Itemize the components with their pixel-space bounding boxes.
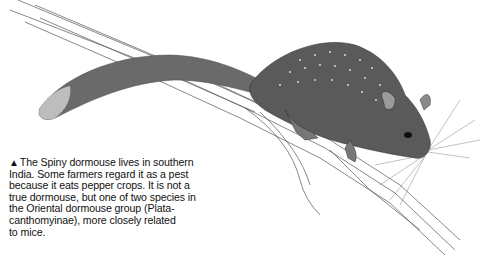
triangle-marker-icon: ▲ <box>9 157 19 168</box>
caption-line-6: canthomyinae), more closely related <box>9 215 249 227</box>
caption: ▲The Spiny dormouse lives in southern In… <box>9 157 249 238</box>
ear-back <box>420 95 430 110</box>
tail-tip <box>39 86 70 120</box>
body <box>250 42 431 158</box>
caption-line-1: ▲The Spiny dormouse lives in southern <box>9 157 249 169</box>
tail <box>39 55 262 120</box>
caption-line-7: to mice. <box>9 227 249 239</box>
eye <box>404 132 412 138</box>
